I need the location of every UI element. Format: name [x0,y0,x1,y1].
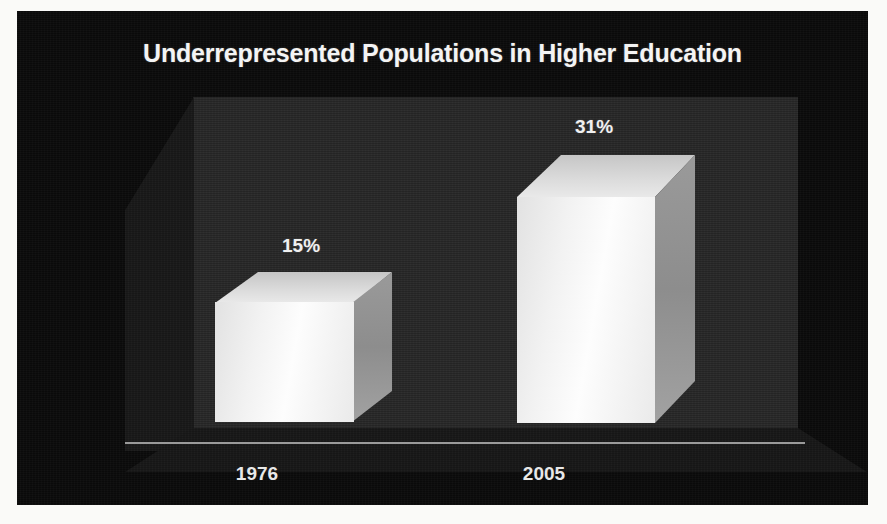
screenshot-root: Underrepresented Populations in Higher E… [0,0,887,524]
value-label-1976: 15% [282,235,320,257]
chart-plot-area: 15% 31% 1976 2005 [17,11,868,505]
chart-title: Underrepresented Populations in Higher E… [17,39,868,68]
bar-1976[interactable] [215,272,392,422]
bar-2005-front-face [517,197,655,423]
chart-left-wall [125,97,194,451]
category-label-1976: 1976 [202,463,312,485]
value-label-2005: 31% [575,116,613,138]
bar-2005-side-face [655,155,695,423]
category-label-2005: 2005 [489,463,599,485]
category-axis-line [125,442,805,444]
chart-plate: Underrepresented Populations in Higher E… [17,11,868,505]
bar-2005[interactable] [517,155,695,423]
bar-1976-front-face [215,302,354,422]
